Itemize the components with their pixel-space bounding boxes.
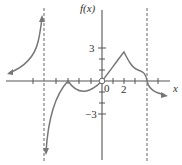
tick-label-3: 3 [89,42,95,54]
arrow-left-branch-bottom [7,69,13,75]
curve-middle-branch [46,52,147,152]
function-graph: f(x) x 0 2 3 −3 [0,0,182,165]
y-axis-label: f(x) [80,2,96,15]
curve-left-branch [9,18,42,73]
tick-label-2: 2 [121,83,127,95]
tick-label-neg3: −3 [85,108,97,120]
x-axis-label: x [172,82,178,94]
arrow-right-branch [161,92,168,98]
tick-label-0: 0 [104,82,110,94]
